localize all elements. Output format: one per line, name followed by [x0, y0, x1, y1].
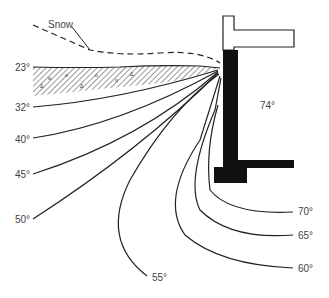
- isotherm-label-55: 55°: [152, 273, 167, 283]
- isotherm-label-23: 23°: [15, 63, 30, 73]
- svg-text:o: o: [65, 72, 68, 78]
- snow-line: [33, 25, 220, 63]
- isotherm-lines: [33, 70, 293, 276]
- svg-text:o: o: [95, 72, 98, 78]
- snow-label: Snow: [48, 20, 73, 30]
- svg-text:o: o: [115, 77, 118, 83]
- isotherm-label-70: 70°: [298, 207, 313, 217]
- foundation-heat-loss-diagram: o o o o Δ Δ Δ: [0, 0, 329, 298]
- isotherm-label-45: 45°: [15, 170, 30, 180]
- isotherm-label-40: 40°: [15, 135, 30, 145]
- interior-temp-label: 74°: [260, 101, 275, 111]
- isotherm-label-32: 32°: [15, 103, 30, 113]
- isotherm-label-65: 65°: [298, 231, 313, 241]
- isotherm-55: [118, 74, 219, 276]
- isotherm-70: [209, 105, 293, 212]
- foundation-wall: [214, 50, 294, 183]
- frozen-soil-layer: o o o o Δ Δ Δ: [33, 66, 220, 96]
- isotherm-label-50: 50°: [15, 215, 30, 225]
- floor-slab-outline: [223, 16, 294, 50]
- isotherm-label-60: 60°: [298, 264, 313, 274]
